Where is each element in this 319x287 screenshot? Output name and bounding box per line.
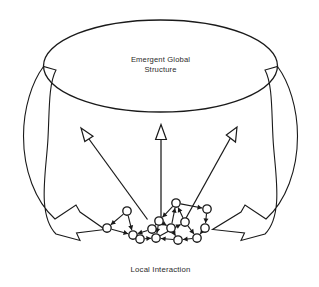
network-node — [174, 236, 182, 244]
network-edge-arrowhead — [123, 230, 128, 235]
network-edge-arrowhead — [189, 229, 194, 234]
network-edge-arrowhead — [128, 225, 133, 230]
network-edge-arrowhead — [204, 218, 209, 223]
emergence-diagram-canvas: Emergent Global Structure Local Interact… — [0, 0, 319, 287]
network-edge-arrowhead — [197, 205, 202, 210]
emergent-global-structure-label-line1: Emergent Global — [131, 55, 190, 64]
emergent-global-structure-label-line2: Structure — [144, 65, 176, 74]
network-edge-arrowhead — [172, 208, 177, 213]
network-node — [148, 225, 156, 233]
network-node — [181, 218, 189, 226]
local-interaction-network — [103, 199, 211, 244]
network-node — [152, 234, 160, 242]
network-node — [103, 224, 111, 232]
upward-emergence-arrows — [81, 125, 237, 223]
network-edge-arrowhead — [146, 236, 151, 241]
local-interaction-label: Local Interaction — [131, 265, 191, 274]
network-node — [167, 224, 175, 232]
network-node — [193, 234, 201, 242]
emergence-diagram: Emergent Global Structure Local Interact… — [0, 0, 319, 287]
network-node — [155, 217, 163, 225]
network-edge-arrowhead — [183, 237, 188, 242]
center-upward-arrow — [156, 125, 167, 223]
network-node — [201, 224, 209, 232]
right-upward-arrow — [186, 127, 238, 219]
left-upward-arrow — [81, 128, 148, 220]
network-edge-arrowhead — [161, 236, 166, 241]
network-node — [136, 235, 144, 243]
network-node — [203, 205, 211, 213]
network-nodes — [103, 199, 211, 244]
network-node — [172, 199, 180, 207]
network-node — [123, 207, 131, 215]
